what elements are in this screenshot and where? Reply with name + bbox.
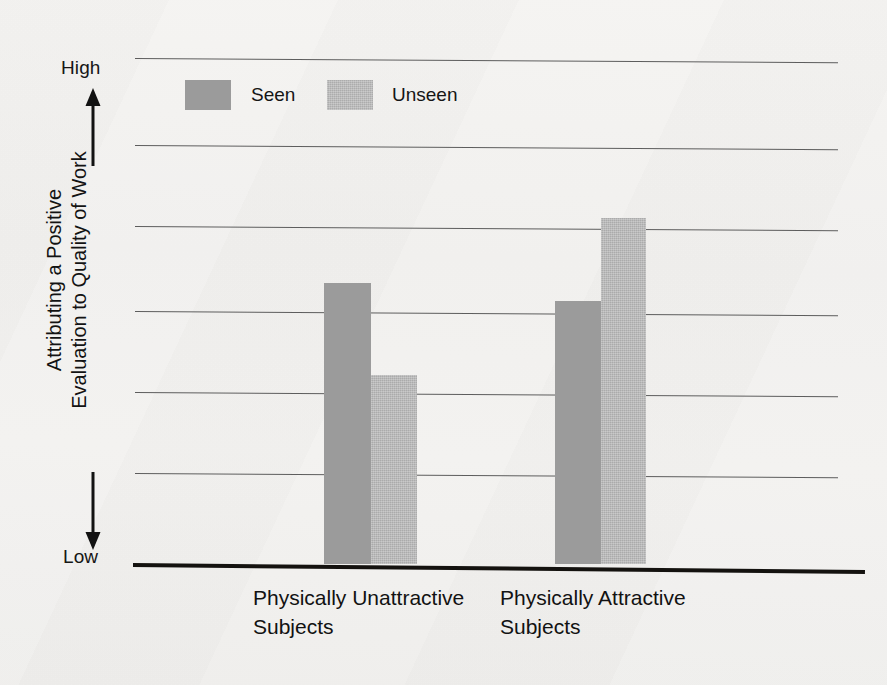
y-axis-title-line-2: Evaluation to Quality of Work: [67, 30, 92, 530]
category-label-unattractive-line1: Physically Unattractive: [253, 586, 464, 609]
bar-unseen-attractive: [601, 218, 646, 564]
x-axis-baseline: [133, 563, 865, 574]
category-label-attractive-line2: Subjects: [500, 615, 581, 638]
category-label-attractive: Physically AttractiveSubjects: [500, 583, 686, 641]
category-label-unattractive: Physically UnattractiveSubjects: [253, 583, 464, 641]
legend-label-seen: Seen: [251, 84, 295, 106]
category-label-unattractive-line2: Subjects: [253, 615, 334, 638]
bar-seen-attractive: [555, 301, 601, 564]
y-axis-title-line-1: Attributing a Positive: [42, 30, 67, 530]
y-axis-low-label: Low: [63, 546, 98, 568]
bar-chart: High Low Attributing a Positive Evaluati…: [0, 0, 887, 685]
legend-swatch-unseen: [327, 80, 373, 110]
bar-seen-unattractive: [324, 283, 371, 564]
legend-label-unseen: Unseen: [392, 84, 458, 106]
category-label-attractive-line1: Physically Attractive: [500, 586, 686, 609]
bar-unseen-unattractive: [371, 375, 417, 564]
legend-swatch-seen: [185, 80, 231, 110]
